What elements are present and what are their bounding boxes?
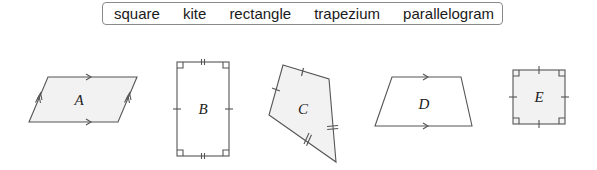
label-b: B	[198, 101, 207, 117]
label-a: A	[73, 92, 84, 108]
label-d: D	[418, 96, 430, 112]
shapes-canvas: A B C D E	[0, 0, 597, 170]
label-e: E	[533, 89, 543, 105]
label-c: C	[298, 101, 309, 117]
